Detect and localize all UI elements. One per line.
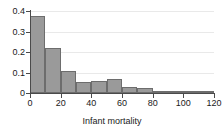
y-axis-line	[30, 10, 31, 94]
x-axis-tick-label: 0	[27, 99, 32, 108]
bars-group	[30, 11, 214, 93]
histogram-bar	[45, 48, 60, 94]
histogram-bar	[61, 71, 76, 93]
histogram-bar	[30, 16, 45, 93]
x-axis-tick-label: 100	[176, 99, 191, 108]
x-axis-tick-label: 80	[148, 99, 158, 108]
y-axis-tick-label: 0.4	[12, 7, 25, 16]
x-axis-tick-label: 40	[86, 99, 96, 108]
histogram-bar	[76, 82, 91, 93]
y-axis-tick-label: 0.2	[12, 48, 25, 57]
x-axis-title: Infant mortality	[0, 116, 224, 126]
y-axis-tick-label: 0	[20, 89, 25, 98]
x-axis-tick-label: 20	[56, 99, 66, 108]
x-axis-tick-label: 60	[117, 99, 127, 108]
histogram-figure: 00.10.20.30.4 020406080100120 Infant mor…	[0, 0, 224, 135]
histogram-bar	[91, 81, 106, 93]
y-axis-tick	[26, 32, 30, 33]
y-axis-tick-label: 0.3	[12, 28, 25, 37]
y-axis-tick-label: 0.1	[12, 69, 25, 78]
x-axis-tick-label: 120	[206, 99, 221, 108]
histogram-bar	[107, 79, 122, 93]
y-axis-tick	[26, 52, 30, 53]
plot-area	[30, 11, 214, 93]
y-axis-tick	[26, 11, 30, 12]
y-axis-tick	[26, 73, 30, 74]
